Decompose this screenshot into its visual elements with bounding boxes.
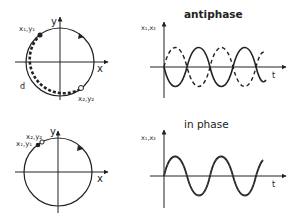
value-axis-label: x₁,x₂ — [141, 134, 156, 142]
t-axis-label: t — [272, 71, 275, 80]
y-axis-label: y — [51, 16, 57, 27]
point1-filled — [38, 33, 43, 38]
t-axis-label: t — [272, 180, 275, 189]
point1-label: x₁,y₁ — [16, 140, 32, 148]
point1-filled — [36, 143, 41, 148]
inphase-circle-diagram: x y x₂,y₂ x₁,y₁ — [15, 126, 108, 213]
distance-label: d — [20, 82, 25, 91]
inphase-time-plot: x₁,x₂ t — [141, 130, 286, 208]
x-axis-label: x — [97, 63, 103, 74]
antiphase-circle-diagram: x y x₁,y₁ x₂,y₂ d — [15, 16, 108, 103]
point2-open — [79, 86, 84, 91]
inphase-title: in phase — [184, 118, 229, 130]
antiphase-title: antiphase — [184, 8, 243, 20]
antiphase-time-plot: x₁,x₂ t — [141, 22, 286, 98]
point2-label: x₂,y₂ — [78, 95, 94, 103]
direction-arrow-icon — [78, 33, 84, 39]
y-axis-label: y — [50, 126, 56, 137]
phase-diagram: x y x₁,y₁ x₂,y₂ d antiphase x₁,x₂ t x y … — [0, 0, 298, 218]
distance-arc — [30, 35, 82, 94]
value-axis-label: x₁,x₂ — [141, 24, 156, 32]
point1-label: x₁,y₁ — [19, 25, 35, 33]
x-axis-label: x — [97, 173, 103, 184]
